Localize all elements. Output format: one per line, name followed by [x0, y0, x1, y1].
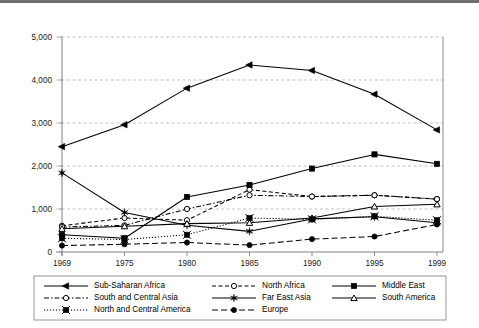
marker-filled-left-triangle	[308, 67, 314, 73]
x-tick-label-1999: 1999	[428, 259, 447, 268]
legend-item-middle-east[interactable]: Middle East	[332, 281, 426, 290]
marker-filled-x-square	[371, 212, 379, 220]
legend-label: Europe	[262, 305, 289, 314]
y-tick-label-3000: 3,000	[32, 119, 53, 128]
x-tick-label-1985: 1985	[240, 259, 259, 268]
marker-filled-circle	[309, 237, 314, 242]
x-axis-tick-labels: 1969197519801985199019951999	[53, 252, 447, 268]
y-tick-label-4000: 4,000	[32, 76, 53, 85]
marker-filled-circle	[434, 222, 439, 227]
marker-filled-circle	[122, 242, 127, 247]
marker-filled-square	[184, 194, 189, 199]
legend-label: South and Central Asia	[94, 293, 178, 302]
legend-label: Sub-Saharan Africa	[94, 281, 165, 290]
marker-filled-square	[309, 166, 314, 171]
marker-filled-x-square	[246, 214, 254, 222]
marker-filled-square	[247, 182, 252, 187]
series-line	[62, 65, 437, 147]
data-series-group	[58, 62, 441, 248]
chart-container: 01,0002,0003,0004,0005,000 1969197519801…	[0, 0, 479, 328]
y-tick-label-2000: 2,000	[32, 162, 53, 171]
marker-filled-left-triangle	[58, 143, 64, 149]
marker-open-circle	[63, 295, 68, 300]
legend-label: Far East Asia	[262, 293, 311, 302]
legend-label: Middle East	[382, 281, 426, 290]
legend-item-south-and-central-asia[interactable]: South and Central Asia	[44, 293, 178, 302]
x-tick-label-1975: 1975	[115, 259, 134, 268]
marker-filled-square	[351, 283, 356, 288]
marker-filled-left-triangle	[246, 62, 252, 68]
legend-item-north-africa[interactable]: North Africa	[212, 281, 305, 290]
marker-filled-circle	[184, 240, 189, 245]
marker-open-circle	[247, 193, 252, 198]
marker-open-circle	[231, 283, 236, 288]
legend-item-south-america[interactable]: South America	[332, 293, 436, 302]
legend-item-far-east-asia[interactable]: Far East Asia	[212, 293, 311, 302]
marker-open-circle	[372, 193, 377, 198]
marker-open-circle	[184, 206, 189, 211]
legend-item-sub-saharan-africa[interactable]: Sub-Saharan Africa	[44, 281, 165, 290]
marker-filled-left-triangle	[433, 127, 439, 133]
marker-open-circle	[309, 194, 314, 199]
x-tick-label-1980: 1980	[178, 259, 197, 268]
legend-label: North Africa	[262, 281, 305, 290]
marker-filled-x-square	[58, 234, 66, 242]
series-sub-saharan-africa	[58, 62, 439, 150]
marker-filled-circle	[372, 234, 377, 239]
chart-legend: Sub-Saharan AfricaNorth AfricaMiddle Eas…	[34, 276, 446, 320]
marker-filled-left-triangle	[371, 91, 377, 97]
legend-item-europe[interactable]: Europe	[212, 305, 289, 314]
y-tick-label-1000: 1,000	[32, 205, 53, 214]
x-tick-label-1969: 1969	[53, 259, 72, 268]
marker-filled-x-square	[308, 215, 316, 223]
legend-label: South America	[382, 293, 436, 302]
marker-filled-x-square	[62, 306, 70, 314]
line-chart-svg: 01,0002,0003,0004,0005,000 1969197519801…	[0, 0, 479, 328]
marker-filled-circle	[247, 243, 252, 248]
marker-filled-circle	[231, 307, 236, 312]
marker-filled-x-square	[183, 231, 191, 239]
legend-item-north-and-central-america[interactable]: North and Central America	[44, 305, 191, 314]
marker-filled-circle	[59, 243, 64, 248]
marker-filled-star	[59, 169, 66, 177]
legend-label: North and Central America	[94, 305, 191, 314]
marker-filled-left-triangle	[121, 122, 127, 128]
y-tick-label-5000: 5,000	[32, 33, 53, 42]
marker-filled-square	[372, 152, 377, 157]
y-axis-tick-labels: 01,0002,0003,0004,0005,000	[32, 33, 63, 257]
marker-filled-left-triangle	[62, 283, 68, 289]
y-tick-label-0: 0	[47, 248, 52, 257]
marker-filled-square	[434, 161, 439, 166]
x-tick-label-1995: 1995	[365, 259, 384, 268]
x-tick-label-1990: 1990	[303, 259, 322, 268]
